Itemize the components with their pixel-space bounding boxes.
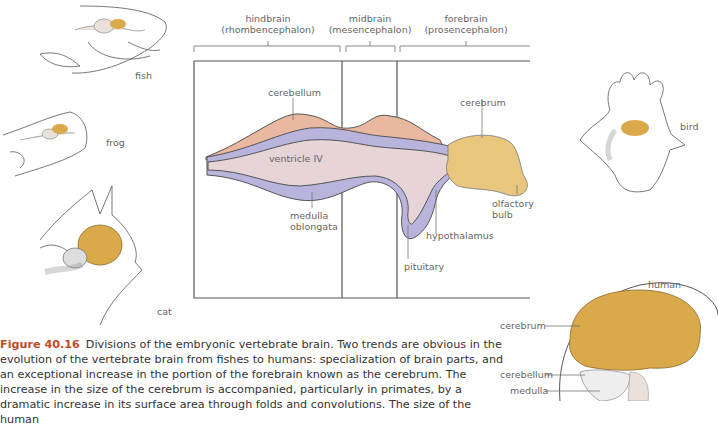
label-fish: fish <box>135 70 152 81</box>
division-term: (rhombencephalon) <box>218 24 318 35</box>
division-term: (prosencephalon) <box>416 24 516 35</box>
label-pituitary: pituitary <box>404 261 444 272</box>
division-name: forebrain <box>416 13 516 24</box>
frog-drawing <box>3 112 87 176</box>
human-drawing <box>560 283 718 401</box>
cat-drawing <box>40 186 142 325</box>
division-name: midbrain <box>320 13 420 24</box>
label-cerebellum: cerebellum <box>268 87 321 98</box>
label-frog: frog <box>106 137 125 148</box>
division-brackets <box>194 41 530 52</box>
label-cerebrum: cerebrum <box>460 97 506 108</box>
embryonic-brain <box>206 114 527 239</box>
label-hypothalamus: hypothalamus <box>426 230 494 241</box>
label-medulla-oblongata: medulla oblongata <box>290 210 338 232</box>
label-olfactory-bulb: olfactory bulb <box>492 198 534 220</box>
human-label-cerebrum: cerebrum <box>500 320 546 331</box>
figure-number: Figure 40.16 <box>0 338 80 351</box>
division-term: (mesencephalon) <box>320 24 420 35</box>
label-bird: bird <box>680 121 698 132</box>
division-name: hindbrain <box>218 13 318 24</box>
bird-drawing <box>580 73 685 192</box>
label-human: human <box>648 279 681 290</box>
label-ventricle: ventricle IV <box>269 153 323 164</box>
caption-text: Divisions of the embryonic vertebrate br… <box>0 338 503 426</box>
label-cat: cat <box>157 306 172 317</box>
division-label-hindbrain: hindbrain (rhombencephalon) <box>218 13 318 35</box>
division-label-forebrain: forebrain (prosencephalon) <box>416 13 516 35</box>
human-label-medulla: medulla <box>510 385 548 396</box>
fish-drawing <box>40 6 166 73</box>
figure-caption: Figure 40.16Divisions of the embryonic v… <box>0 337 510 427</box>
division-label-midbrain: midbrain (mesencephalon) <box>320 13 420 35</box>
